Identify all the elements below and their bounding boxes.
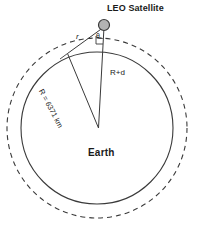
orbit-radius-line xyxy=(99,27,105,128)
earth-circle xyxy=(21,52,173,204)
orbit-radius-label: R+d xyxy=(110,69,125,77)
leo-satellite-diagram: LEO Satellite r θ R+d R = 6371 km Earth xyxy=(0,0,201,230)
orbit-circle xyxy=(7,38,187,218)
earth-label: Earth xyxy=(88,148,115,158)
satellite-marker-icon xyxy=(99,20,110,31)
earth-radius-line xyxy=(68,54,99,129)
diagram-canvas xyxy=(0,0,201,230)
satellite-label: LEO Satellite xyxy=(107,4,164,13)
angle-label: θ xyxy=(96,32,100,39)
slant-range-label: r xyxy=(76,33,79,41)
slant-range-line xyxy=(68,27,105,54)
